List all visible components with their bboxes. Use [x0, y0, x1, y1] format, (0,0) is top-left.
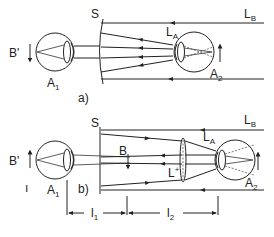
screen-label-b: S [91, 116, 99, 130]
image-label-b: B' [9, 154, 19, 168]
optics-diagram: S B' A1 a) LB LA [0, 0, 274, 237]
eye-a2-a [174, 32, 214, 72]
eye2-label-b: A2 [245, 176, 258, 192]
eye-a1-a [36, 33, 100, 71]
beam-la-label-a: LA [166, 25, 179, 41]
dist2-label: l2 [167, 206, 175, 222]
screen-a [100, 19, 104, 84]
eye1-label-a: A1 [47, 76, 60, 92]
beam-lb-label-b: LB [244, 113, 256, 129]
eye2-label-a: A2 [210, 67, 223, 83]
caption-a: a) [78, 91, 89, 105]
lens-label: L+ [168, 165, 180, 180]
dimension-lines [67, 180, 218, 215]
beam-la-label-b: LA [203, 130, 216, 146]
image-label-a: B' [9, 46, 19, 60]
panel-a: S B' A1 a) LB LA [9, 7, 264, 105]
eye-a2-b [215, 140, 255, 180]
eye1-label-b: A1 [47, 183, 60, 199]
screen-label-a: S [91, 7, 99, 21]
beam-lb-label-a: LB [244, 7, 256, 23]
panel-b: S B' ı A1 b) B LB [9, 113, 264, 222]
caption-b: b) [78, 182, 89, 196]
dist1-label: l1 [91, 206, 99, 222]
tick-mark-b: ı [25, 181, 28, 195]
eye-a1-b [36, 141, 130, 179]
